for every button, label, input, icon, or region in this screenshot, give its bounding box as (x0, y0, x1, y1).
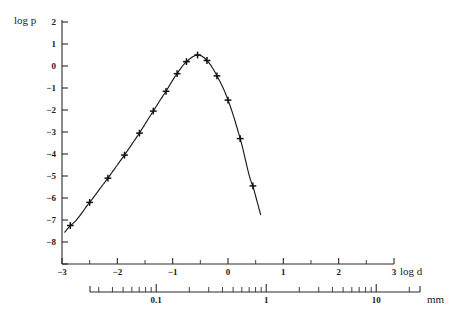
x-tick-label: 3 (392, 267, 397, 277)
x-tick-label: 0 (226, 267, 231, 277)
mm-scale-ticks (90, 284, 420, 292)
data-point-marker (163, 88, 170, 95)
data-point-marker (150, 108, 157, 115)
y-axis-tick-labels: 210−1−2−3−4−5−6−7−8 (46, 17, 56, 247)
x-tick-label: −1 (168, 267, 178, 277)
data-point-marker (225, 97, 232, 104)
data-point-marker (136, 130, 143, 137)
x-axis-ticks (62, 258, 394, 264)
y-tick-label: −7 (46, 215, 56, 225)
mm-major-label: 0.1 (151, 295, 163, 305)
x-tick-label: −3 (57, 267, 67, 277)
data-curve-group (65, 52, 261, 233)
y-tick-label: −1 (46, 83, 56, 93)
x-axis-title: log d (400, 265, 423, 277)
y-tick-label: −5 (46, 171, 56, 181)
y-tick-label: −8 (46, 237, 56, 247)
mm-scale-labels: 0.1110 (151, 295, 382, 305)
chart-figure: 210−1−2−3−4−5−6−7−8 log p −3−2−10123 log… (0, 0, 465, 315)
y-tick-label: −3 (46, 127, 56, 137)
y-tick-label: 1 (52, 39, 57, 49)
data-point-marker (250, 183, 257, 190)
data-point-marker (237, 135, 244, 142)
mm-unit-label: mm (427, 293, 445, 305)
data-point-marker (214, 73, 221, 80)
x-tick-label: 1 (281, 267, 286, 277)
mm-scale-group: 0.1110 mm (90, 284, 445, 305)
x-axis-tick-labels: −3−2−10123 (57, 267, 397, 277)
y-axis-title: log p (14, 14, 37, 26)
x-tick-label: −2 (113, 267, 123, 277)
x-tick-label: 2 (336, 267, 341, 277)
y-tick-label: 0 (52, 61, 57, 71)
y-tick-label: −6 (46, 193, 56, 203)
y-tick-label: −2 (46, 105, 56, 115)
y-tick-label: 2 (52, 17, 57, 27)
data-point-marker (194, 52, 201, 59)
chart-svg: 210−1−2−3−4−5−6−7−8 log p −3−2−10123 log… (0, 0, 465, 315)
mm-major-label: 1 (264, 295, 269, 305)
data-point-markers (67, 52, 256, 229)
x-axis-group: −3−2−10123 log d (57, 258, 423, 277)
mm-major-label: 10 (372, 295, 382, 305)
fitted-curve (65, 55, 261, 232)
y-tick-label: −4 (46, 149, 56, 159)
y-axis-group: 210−1−2−3−4−5−6−7−8 log p (14, 14, 68, 264)
y-axis-ticks (62, 22, 68, 264)
